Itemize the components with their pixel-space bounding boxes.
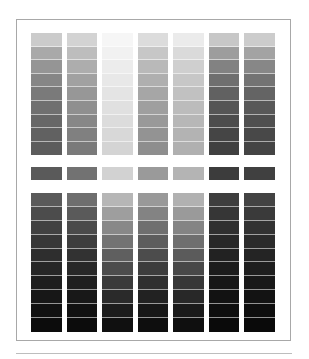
gray-swatch	[31, 207, 62, 221]
gray-swatch	[138, 115, 169, 129]
gray-swatch	[173, 33, 204, 47]
gray-swatch	[67, 249, 98, 263]
gray-swatch	[67, 142, 98, 156]
gray-swatch	[209, 207, 240, 221]
gray-swatch	[138, 262, 169, 276]
gray-swatch	[209, 304, 240, 318]
gray-swatch	[173, 207, 204, 221]
gray-swatch	[173, 193, 204, 207]
gray-swatch	[209, 33, 240, 47]
gray-swatch	[67, 262, 98, 276]
gray-swatch	[102, 207, 133, 221]
gray-swatch	[173, 87, 204, 101]
gray-swatch	[102, 276, 133, 290]
gray-swatch	[173, 115, 204, 129]
gray-swatch	[209, 235, 240, 249]
swatch-column	[173, 33, 204, 155]
swatch-column	[31, 193, 62, 332]
gray-swatch	[244, 74, 275, 88]
gray-swatch	[244, 128, 275, 142]
swatch-column	[31, 167, 62, 180]
gray-swatch	[102, 60, 133, 74]
gray-swatch	[31, 318, 62, 332]
gray-swatch	[102, 221, 133, 235]
swatch-column	[31, 33, 62, 155]
gray-swatch	[244, 290, 275, 304]
light-swatch-section	[31, 33, 275, 155]
gray-swatch	[173, 249, 204, 263]
gray-swatch	[67, 276, 98, 290]
gray-swatch	[67, 207, 98, 221]
gray-swatch	[173, 304, 204, 318]
gray-swatch	[67, 193, 98, 207]
gray-swatch	[209, 262, 240, 276]
gray-swatch	[67, 74, 98, 88]
gray-swatch	[209, 318, 240, 332]
gray-swatch	[102, 101, 133, 115]
gray-swatch	[173, 276, 204, 290]
gray-swatch	[31, 74, 62, 88]
gray-swatch	[31, 276, 62, 290]
swatch-column	[244, 33, 275, 155]
swatch-column	[244, 193, 275, 332]
gray-swatch	[138, 207, 169, 221]
gray-swatch	[138, 304, 169, 318]
bottom-divider	[16, 353, 292, 354]
gray-swatch	[138, 276, 169, 290]
gray-swatch	[102, 262, 133, 276]
gray-swatch	[138, 101, 169, 115]
gray-swatch	[209, 115, 240, 129]
gray-swatch	[209, 193, 240, 207]
gray-swatch	[173, 47, 204, 61]
gray-swatch	[138, 221, 169, 235]
gray-swatch	[209, 167, 240, 180]
gray-swatch	[138, 74, 169, 88]
gray-swatch	[102, 304, 133, 318]
gray-swatch	[102, 47, 133, 61]
gray-swatch	[102, 115, 133, 129]
gray-swatch	[244, 193, 275, 207]
gray-swatch	[209, 142, 240, 156]
gray-swatch	[244, 221, 275, 235]
gray-swatch	[67, 47, 98, 61]
gray-swatch	[67, 128, 98, 142]
gray-swatch	[244, 207, 275, 221]
gray-swatch	[67, 33, 98, 47]
gray-swatch	[244, 60, 275, 74]
gray-swatch	[138, 60, 169, 74]
gray-swatch	[67, 304, 98, 318]
gray-swatch	[102, 235, 133, 249]
gray-swatch	[209, 249, 240, 263]
gray-swatch	[67, 318, 98, 332]
gray-swatch	[244, 249, 275, 263]
gray-swatch	[67, 235, 98, 249]
gray-swatch	[244, 101, 275, 115]
swatch-column	[138, 167, 169, 180]
middle-swatch-strip	[31, 167, 275, 180]
gray-swatch	[31, 115, 62, 129]
gray-swatch	[244, 262, 275, 276]
gray-swatch	[173, 262, 204, 276]
gray-swatch	[67, 290, 98, 304]
gray-swatch	[173, 221, 204, 235]
swatch-column	[138, 193, 169, 332]
gray-swatch	[102, 142, 133, 156]
gray-swatch	[173, 167, 204, 180]
gray-swatch	[67, 115, 98, 129]
gray-swatch	[209, 60, 240, 74]
gray-swatch	[31, 33, 62, 47]
gray-swatch	[31, 128, 62, 142]
gray-swatch	[102, 128, 133, 142]
gray-swatch	[244, 304, 275, 318]
gray-swatch	[31, 304, 62, 318]
gray-swatch	[244, 87, 275, 101]
gray-swatch	[138, 87, 169, 101]
swatch-column	[138, 33, 169, 155]
gray-swatch	[173, 128, 204, 142]
gray-swatch	[209, 290, 240, 304]
gray-swatch	[31, 193, 62, 207]
gray-swatch	[31, 249, 62, 263]
swatch-column	[173, 193, 204, 332]
gray-swatch	[31, 47, 62, 61]
swatch-column	[244, 167, 275, 180]
